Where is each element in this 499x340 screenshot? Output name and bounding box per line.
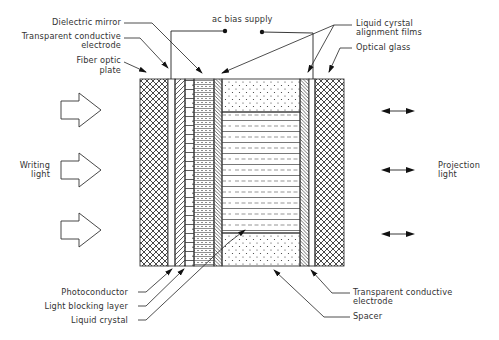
writing-light-arrows [61,93,101,247]
layer-alignment-film-right [300,79,309,266]
label-writing-light-2: light [31,170,50,179]
layer-alignment-film-left [214,79,222,266]
label-transparent-electrode-bottom-2: electrode [353,297,393,306]
writing-arrow-icon-3 [61,213,101,247]
layer-photoconductor [175,79,185,266]
writing-arrow-icon-2 [61,153,101,187]
layer-liquid-crystal [222,112,300,233]
label-optical-glass: Optical glass [356,43,411,52]
label-ac-bias-supply: ac bias supply [212,15,273,24]
writing-arrow-icon-1 [61,93,101,127]
label-projection-light-2: light [438,170,457,179]
label-liquid-crystal: Liquid crystal [71,316,128,325]
label-fiber-optic-1: Fiber optic [77,56,121,65]
layer-stack [140,79,344,266]
layer-fiber-optic-plate [140,79,168,266]
layer-optical-glass [315,79,344,266]
label-dielectric-mirror: Dielectric mirror [52,18,121,27]
layer-spacer-bottom [222,233,300,266]
layer-dielectric-mirror [194,79,214,266]
label-spacer: Spacer [353,312,382,321]
layer-transparent-electrode-right [309,79,315,266]
label-photoconductor: Photoconductor [61,288,128,297]
label-transparent-electrode-top-2: electrode [81,41,121,50]
ac-bias-wiring [171,29,313,79]
layer-spacer-top [222,79,300,112]
projection-light-arrows [381,108,415,237]
label-light-blocking-layer: Light blocking layer [44,302,128,311]
label-alignment-films-2: alignment films [356,28,422,37]
layer-transparent-electrode-left [168,79,175,266]
label-fiber-optic-2: plate [100,66,122,75]
layer-light-blocking [185,79,194,266]
